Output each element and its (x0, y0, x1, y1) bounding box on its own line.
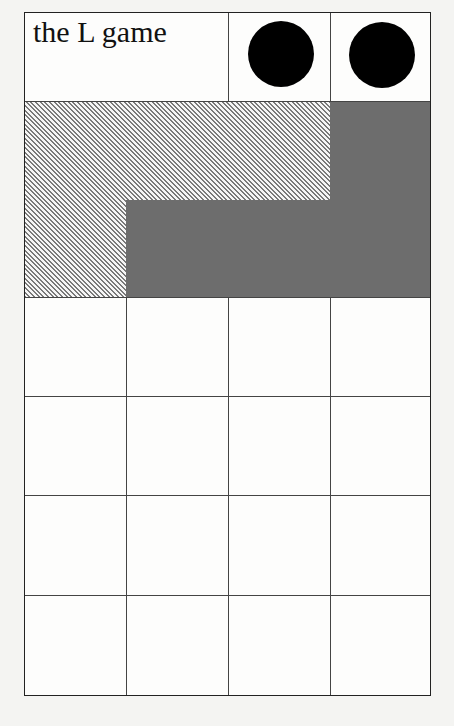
hatched-l-piece-foot[interactable] (25, 200, 126, 298)
game-title: the L game (33, 15, 167, 49)
grid-line (228, 13, 229, 102)
grid-line (25, 101, 430, 102)
solid-l-piece[interactable] (330, 102, 430, 200)
neutral-piece-2[interactable] (349, 22, 415, 88)
grid-line (330, 13, 331, 102)
grid-line (330, 298, 331, 695)
neutral-piece-1[interactable] (248, 21, 314, 87)
grid-line (228, 298, 229, 695)
game-board: the L game (24, 12, 431, 696)
solid-l-piece-base[interactable] (126, 200, 430, 298)
hatched-l-piece[interactable] (25, 102, 330, 200)
grid-line (126, 298, 127, 695)
